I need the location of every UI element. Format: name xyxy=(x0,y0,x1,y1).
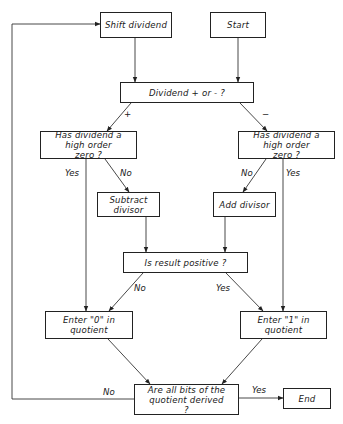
result-positive-decision-box: Is result positive ? xyxy=(123,252,248,273)
left-high-order-zero-decision-box: Has dividend a high order zero ? xyxy=(40,131,137,159)
add-divisor-box: Add divisor xyxy=(213,192,276,217)
connector-lines xyxy=(0,0,343,424)
right-high-order-zero-decision-box: Has dividend a high order zero ? xyxy=(238,131,335,159)
enter-zero-box: Enter "0" in quotient xyxy=(45,311,133,339)
edge-label-right-no: No xyxy=(241,168,253,178)
edge-label-plus: + xyxy=(124,109,131,119)
start-box: Start xyxy=(210,12,266,38)
edge-label-result-no: No xyxy=(134,283,146,293)
subtract-divisor-box: Subtract divisor xyxy=(97,192,160,217)
edge-label-left-no: No xyxy=(120,168,132,178)
end-box: End xyxy=(283,388,331,409)
edge-label-result-yes: Yes xyxy=(216,283,230,293)
edge-label-loop-no: No xyxy=(103,387,115,397)
edge-label-left-yes: Yes xyxy=(65,168,79,178)
edge-label-minus: − xyxy=(262,109,269,119)
enter-one-box: Enter "1" in quotient xyxy=(240,311,327,339)
shift-dividend-box: Shift dividend xyxy=(100,12,172,38)
dividend-sign-decision-box: Dividend + or - ? xyxy=(120,82,254,103)
edge-label-done-yes: Yes xyxy=(252,385,266,395)
all-bits-derived-decision-box: Are all bits of the quotient derived ? xyxy=(134,384,239,415)
edge-label-right-yes: Yes xyxy=(286,168,300,178)
